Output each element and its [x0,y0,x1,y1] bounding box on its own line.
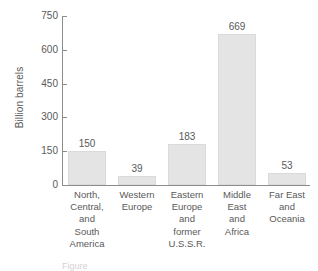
x-axis-label-line: Europe [111,201,163,213]
bar[interactable] [118,176,156,185]
x-axis-label-line: Africa [211,226,263,238]
x-axis-label-line: Middle [211,189,263,201]
y-axis-tick-label: 0 [12,180,58,190]
bar-chart: Billion barrels 0150300450600750 1503918… [0,0,318,271]
x-axis-label-line: Central, [61,201,113,213]
bar-group[interactable]: 183 [163,16,211,185]
x-axis-label-line: and [211,213,263,225]
y-axis-tick-label: 750 [12,11,58,21]
x-axis-label-line: Oceania [261,213,313,225]
y-axis-tick-label: 450 [12,79,58,89]
bar-value-label: 183 [163,131,211,142]
bar[interactable] [218,34,256,185]
x-axis-label-line: Europe [161,201,213,213]
bar-group[interactable]: 669 [213,16,261,185]
x-axis-category-label: WesternEurope [111,189,163,213]
plot-area: 1503918366953 [62,16,310,185]
bar-group[interactable]: 53 [263,16,311,185]
x-axis-label-line: South [61,226,113,238]
y-axis-tick [62,185,67,186]
x-axis-category-label: North,Central,andSouthAmerica [61,189,113,250]
x-axis-label-line: and [161,213,213,225]
x-axis-label-line: and [61,213,113,225]
y-axis-tick-label: 150 [12,146,58,156]
y-axis-tick-label: 300 [12,112,58,122]
x-axis-label-line: and [261,201,313,213]
bar-value-label: 39 [113,163,161,174]
bar[interactable] [268,173,306,185]
y-axis-tick-label: 600 [12,45,58,55]
bar-value-label: 53 [263,160,311,171]
bar-group[interactable]: 150 [63,16,111,185]
x-axis-labels: North,Central,andSouthAmericaWesternEuro… [62,189,310,267]
bar-value-label: 669 [213,21,261,32]
x-axis-category-label: EasternEuropeandformerU.S.S.R. [161,189,213,250]
bar-group[interactable]: 39 [113,16,161,185]
x-axis-label-line: Eastern [161,189,213,201]
x-axis-category-label: MiddleEastandAfrica [211,189,263,238]
bar-value-label: 150 [63,138,111,149]
bar[interactable] [168,144,206,185]
bar[interactable] [68,151,106,185]
x-axis-label-line: America [61,238,113,250]
x-axis-line [62,185,310,186]
x-axis-label-line: East [211,201,263,213]
x-axis-label-line: Far East [261,189,313,201]
x-axis-label-line: U.S.S.R. [161,238,213,250]
x-axis-label-line: Western [111,189,163,201]
y-axis-title: Billion barrels [14,48,25,148]
x-axis-label-line: North, [61,189,113,201]
x-axis-category-label: Far EastandOceania [261,189,313,226]
clipped-caption: Figure [62,262,182,271]
x-axis-label-line: former [161,226,213,238]
